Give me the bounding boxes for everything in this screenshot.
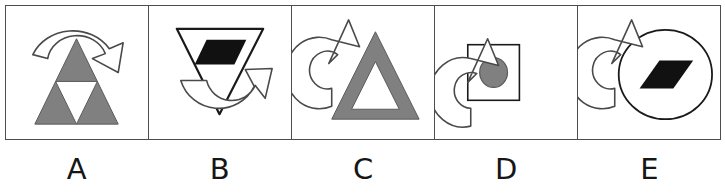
option-label-cell-b: B — [148, 145, 291, 193]
option-label-e: E — [640, 155, 658, 184]
option-label-b: B — [210, 155, 230, 184]
option-label-c: C — [353, 155, 373, 184]
option-a-graphic — [6, 6, 148, 139]
outlined-triangle-icon — [332, 32, 419, 119]
option-label-cell-c: C — [291, 145, 434, 193]
option-e-graphic — [578, 6, 720, 139]
option-label-cell-e: E — [578, 145, 721, 193]
answer-option-b[interactable] — [149, 6, 292, 139]
answer-option-d[interactable] — [435, 6, 578, 139]
answer-option-c[interactable] — [292, 6, 435, 139]
option-b-graphic — [149, 6, 291, 139]
option-c-graphic — [292, 6, 434, 139]
figure-root: A B C D E — [0, 0, 725, 195]
answer-option-a[interactable] — [6, 6, 149, 139]
answer-options-strip — [5, 5, 721, 140]
option-label-a: A — [67, 155, 87, 184]
option-label-cell-a: A — [5, 145, 148, 193]
option-label-d: D — [495, 155, 517, 184]
option-label-cell-d: D — [435, 145, 578, 193]
answer-option-e[interactable] — [578, 6, 720, 139]
option-d-graphic — [435, 6, 577, 139]
option-labels-row: A B C D E — [5, 145, 721, 193]
